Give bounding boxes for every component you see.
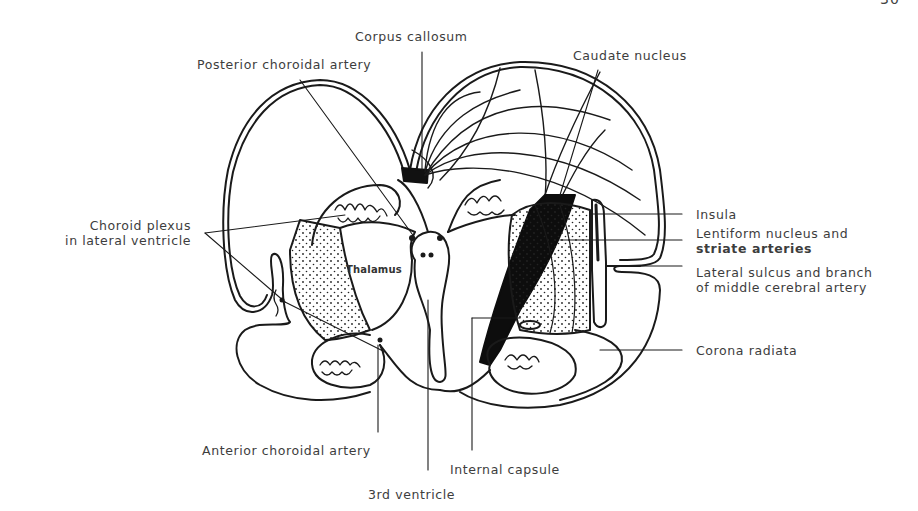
label-corona-radiata: Corona radiata bbox=[696, 343, 797, 358]
label-caudate-nucleus: Caudate nucleus bbox=[573, 48, 687, 63]
left-stippled-caudate bbox=[290, 220, 370, 340]
label-lateral-sulcus-line2: of middle cerebral artery bbox=[696, 280, 873, 295]
label-lateral-sulcus: Lateral sulcus and branch of middle cere… bbox=[696, 265, 873, 295]
label-insula: Insula bbox=[696, 207, 737, 222]
corpus-callosum-bar bbox=[402, 168, 428, 183]
insula-sulcus bbox=[592, 200, 606, 327]
label-choroid-plexus: Choroid plexus in lateral ventricle bbox=[45, 218, 191, 248]
label-lentiform-nucleus: Lentiform nucleus and striate arteries bbox=[696, 226, 848, 256]
label-anterior-choroidal-artery: Anterior choroidal artery bbox=[202, 443, 371, 458]
left-temporal-lobe bbox=[312, 334, 384, 388]
label-lentiform-line1: Lentiform nucleus and bbox=[696, 226, 848, 241]
label-lentiform-line2: striate arteries bbox=[696, 241, 848, 256]
label-corpus-callosum: Corpus callosum bbox=[355, 29, 468, 44]
leader-lines bbox=[205, 52, 682, 470]
label-internal-capsule: Internal capsule bbox=[450, 462, 560, 477]
label-lateral-sulcus-line1: Lateral sulcus and branch bbox=[696, 265, 873, 280]
label-posterior-choroidal-artery: Posterior choroidal artery bbox=[197, 57, 371, 72]
label-choroid-plexus-line1: Choroid plexus bbox=[45, 218, 191, 233]
label-choroid-plexus-line2: in lateral ventricle bbox=[45, 233, 191, 248]
label-third-ventricle: 3rd ventricle bbox=[368, 487, 455, 502]
label-thalamus: Thalamus bbox=[346, 262, 402, 277]
lentiform-nucleus bbox=[509, 203, 590, 334]
